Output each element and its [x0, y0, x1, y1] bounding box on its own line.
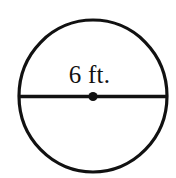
diameter-label: 6 ft. — [0, 61, 176, 89]
circle-diagram-canvas — [0, 0, 176, 178]
center-point — [88, 92, 97, 101]
geometry-figure: 6 ft. — [0, 0, 176, 178]
